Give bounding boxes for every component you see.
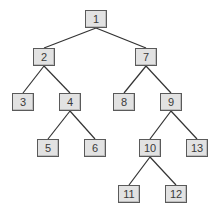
tree-edge-9-10 [150, 111, 171, 139]
tree-edge-10-12 [150, 157, 176, 185]
tree-node-10: 10 [139, 139, 161, 157]
tree-node-5: 5 [37, 139, 59, 157]
tree-node-8: 8 [113, 93, 135, 111]
tree-edge-2-4 [44, 66, 70, 93]
tree-node-11: 11 [118, 185, 140, 203]
tree-edge-4-6 [70, 111, 95, 139]
tree-edge-2-3 [23, 66, 44, 93]
tree-edge-1-2 [44, 28, 96, 48]
tree-edge-4-5 [48, 111, 70, 139]
tree-edge-7-9 [146, 66, 171, 93]
tree-node-6: 6 [84, 139, 106, 157]
tree-edge-10-11 [129, 157, 150, 185]
tree-node-1: 1 [85, 10, 107, 28]
tree-node-4: 4 [59, 93, 81, 111]
tree-node-7: 7 [135, 48, 157, 66]
tree-node-13: 13 [186, 139, 208, 157]
tree-node-9: 9 [160, 93, 182, 111]
tree-diagram: 1 2 7 3 4 8 9 5 6 10 13 11 12 [0, 0, 218, 214]
tree-edge-1-7 [96, 28, 146, 48]
tree-edge-9-13 [171, 111, 197, 139]
tree-node-3: 3 [12, 93, 34, 111]
tree-node-2: 2 [33, 48, 55, 66]
tree-node-12: 12 [165, 185, 187, 203]
tree-edge-7-8 [124, 66, 146, 93]
